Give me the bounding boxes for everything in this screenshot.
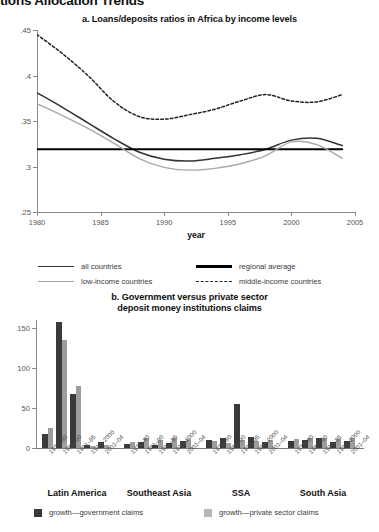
legend-label: all countries — [81, 262, 122, 271]
legend-item-government-claims: growth—government claims — [34, 508, 204, 517]
series-line-all-countries — [37, 93, 342, 161]
x-tick-mark — [37, 212, 38, 216]
y-tick-label: 50 — [22, 404, 30, 413]
page-heading: tions Allocation Trends — [0, 0, 144, 7]
color-swatch-icon — [204, 509, 212, 517]
legend-item-private-sector-claims: growth—private sector claims — [204, 508, 374, 517]
legend-label: regional average — [239, 262, 296, 271]
panel-b-title-line1: b. Government versus private sector — [0, 292, 379, 303]
y-tick-label: 150 — [17, 324, 30, 333]
panel-a-x-axis — [37, 212, 355, 213]
panel-b-period-labels: 1971–801981–901991–951996–20002001–04197… — [36, 450, 364, 492]
panel-b-plot-area: 050100150 — [36, 320, 364, 448]
legend-item-regional-average: regional average — [196, 262, 354, 271]
line-swatch-icon — [196, 262, 232, 271]
series-line-low-income-countries — [37, 104, 342, 170]
y-tick-mark — [32, 448, 36, 449]
panel-a-line-chart: a. Loans/deposits ratios in Africa by in… — [0, 14, 379, 286]
line-swatch-icon — [38, 262, 74, 271]
region-label: Southeast Asia — [127, 488, 192, 498]
y-tick-label: .3 — [25, 162, 31, 171]
legend-item-middle-income-countries: middle-income countries — [196, 277, 354, 286]
y-tick-label: .4 — [25, 71, 31, 80]
legend-label: low-income countries — [81, 277, 152, 286]
panel-a-plot-area: .25.3.35.4.45 198019851990199520002005 y… — [37, 30, 355, 212]
x-tick-label: 2000 — [283, 218, 299, 227]
panel-b-legend: growth—government claims growth—private … — [34, 508, 374, 517]
panel-a-title: a. Loans/deposits ratios in Africa by in… — [0, 14, 379, 24]
dashed-line-swatch-icon — [196, 277, 232, 286]
region-label: SSA — [232, 488, 251, 498]
region-label: Latin America — [47, 488, 106, 498]
x-tick-label: 1985 — [92, 218, 108, 227]
panel-b-bar-chart: b. Government versus private sector depo… — [0, 292, 379, 532]
x-tick-label: 2005 — [347, 218, 363, 227]
legend-label: growth—private sector claims — [219, 508, 319, 517]
panel-a-series-svg — [37, 30, 355, 212]
series-line-middle-income-countries — [37, 35, 342, 120]
x-tick-mark — [291, 212, 292, 216]
y-tick-label: .45 — [20, 26, 31, 35]
color-swatch-icon — [34, 509, 42, 517]
figure-container: tions Allocation Trends a. Loans/deposit… — [0, 0, 379, 532]
panel-a-legend: all countries regional average low-incom… — [38, 262, 358, 292]
y-tick-label: .35 — [20, 117, 31, 126]
panel-b-bars — [36, 320, 364, 448]
legend-item-all-countries: all countries — [38, 262, 196, 271]
panel-b-region-labels: Latin AmericaSoutheast AsiaSSASouth Asia — [36, 488, 364, 504]
x-tick-mark — [101, 212, 102, 216]
x-tick-mark — [228, 212, 229, 216]
x-tick-mark — [164, 212, 165, 216]
x-tick-label: 1980 — [29, 218, 45, 227]
panel-a-x-axis-label: year — [37, 230, 355, 240]
x-tick-label: 1990 — [156, 218, 172, 227]
y-tick-label: .25 — [20, 208, 31, 217]
region-label: South Asia — [300, 488, 347, 498]
legend-label: middle-income countries — [239, 277, 321, 286]
legend-label: growth—government claims — [49, 508, 143, 517]
bar-private-sector-claims — [62, 340, 68, 448]
y-tick-label: 100 — [17, 364, 30, 373]
y-tick-label: 0 — [26, 444, 30, 453]
x-tick-label: 1995 — [220, 218, 236, 227]
panel-b-title-line2: deposit money institutions claims — [0, 303, 379, 314]
legend-item-low-income-countries: low-income countries — [38, 277, 196, 286]
line-swatch-icon — [38, 277, 74, 286]
panel-b-title: b. Government versus private sector depo… — [0, 292, 379, 314]
x-tick-mark — [355, 212, 356, 216]
